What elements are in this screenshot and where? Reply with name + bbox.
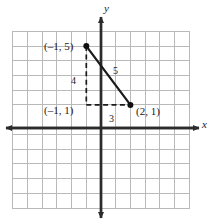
- hypotenuse-length-label: 5: [113, 66, 118, 76]
- coordinate-plane-figure: (–1, 5) (2, 1) (–1, 1) 4 3 5 x y: [0, 0, 214, 223]
- point-marker-upper: [83, 43, 89, 49]
- x-axis-label: x: [202, 119, 207, 130]
- point-label-lower-left: (–1, 1): [44, 105, 73, 116]
- point-label-lower-right: (2, 1): [136, 106, 160, 117]
- y-axis-label: y: [104, 3, 109, 14]
- vertical-leg-length-label: 4: [71, 76, 76, 86]
- horizontal-leg-length-label: 3: [109, 114, 114, 124]
- point-marker-lower-right: [127, 102, 133, 108]
- point-label-upper: (–1, 5): [44, 41, 73, 52]
- coordinate-plane-svg: [0, 0, 214, 223]
